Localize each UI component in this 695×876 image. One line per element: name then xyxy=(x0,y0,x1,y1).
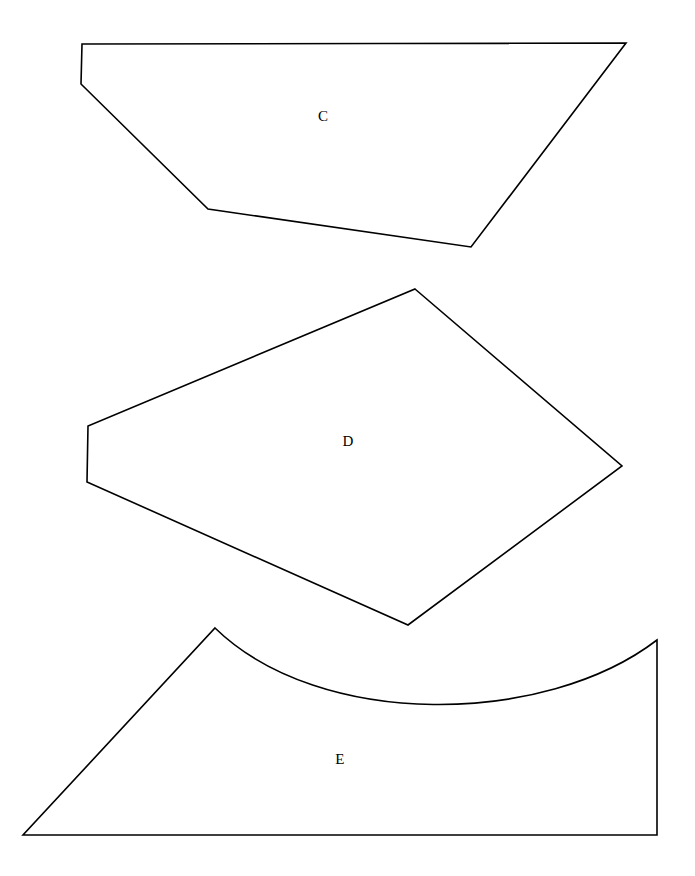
shape-d-label: D xyxy=(342,433,353,449)
shape-e-label: E xyxy=(335,751,344,767)
shape-e-outline xyxy=(23,628,657,835)
shape-c-outline xyxy=(81,43,626,247)
figure-canvas: C D E xyxy=(0,0,695,876)
shape-d-outline xyxy=(87,289,622,625)
shape-group-c: C xyxy=(81,43,626,247)
shapes-svg: C D E xyxy=(0,0,695,876)
shape-c-label: C xyxy=(318,108,328,124)
shape-group-e: E xyxy=(23,628,657,835)
shape-group-d: D xyxy=(87,289,622,625)
